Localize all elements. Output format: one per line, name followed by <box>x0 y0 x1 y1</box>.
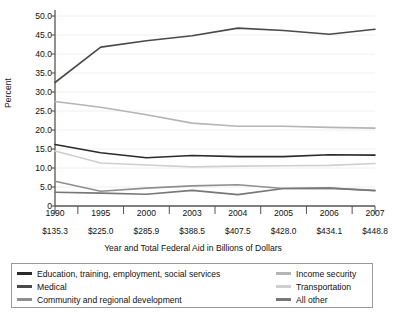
legend-label: Transportation <box>296 282 351 292</box>
legend-line-swatch <box>17 272 32 275</box>
series-line-income-security <box>55 102 375 129</box>
x-axis-tick-sublabel: $428.0 <box>261 226 307 237</box>
series-line-medical <box>55 28 375 82</box>
legend-item[interactable]: Transportation <box>276 280 356 293</box>
x-axis-tick-sublabel: $225.0 <box>78 226 124 237</box>
x-axis-tick-label: 2005 <box>261 208 307 219</box>
legend-label: Income security <box>296 269 356 279</box>
legend-line-swatch <box>17 298 32 301</box>
legend-line-swatch <box>276 285 291 288</box>
legend-item[interactable]: Income security <box>276 267 356 280</box>
plot-area: Percent 05.010.015.020.025.030.035.040.0… <box>0 0 386 260</box>
x-axis-tick-label: 1990 <box>32 208 78 219</box>
chart-legend: Education, training, employment, social … <box>11 263 373 308</box>
x-axis-tick-label: 2000 <box>124 208 170 219</box>
x-axis-tick-label: 1995 <box>78 208 124 219</box>
x-axis-tick-label: 2003 <box>169 208 215 219</box>
legend-label: Education, training, employment, social … <box>37 269 220 279</box>
legend-line-swatch <box>17 285 32 288</box>
x-axis-tick-sublabel: $285.9 <box>124 226 170 237</box>
legend-item[interactable]: Community and regional development <box>17 293 220 306</box>
legend-label: Community and regional development <box>37 295 182 305</box>
x-axis-tick-sublabel: $434.1 <box>306 226 352 237</box>
legend-item[interactable]: Education, training, employment, social … <box>17 267 220 280</box>
legend-label: All other <box>296 295 328 305</box>
series-line-community-and-regional-development <box>55 181 375 191</box>
x-axis-tick-labels: 19901995200020032004200520062007 <box>55 208 375 222</box>
x-axis-tick-sublabels: $135.3$225.0$285.9$388.5$407.5$428.0$434… <box>55 226 375 240</box>
legend-line-swatch <box>276 272 291 275</box>
x-axis-tick-label: 2004 <box>215 208 261 219</box>
x-axis-tick-sublabel: $407.5 <box>215 226 261 237</box>
legend-column-left: Education, training, employment, social … <box>17 267 220 306</box>
series-line-education-training-employment-social-services <box>55 144 375 157</box>
x-axis-tick-sublabel: $135.3 <box>32 226 78 237</box>
x-axis-tick-sublabel: $448.8 <box>352 226 393 237</box>
x-axis-tick-sublabel: $388.5 <box>169 226 215 237</box>
legend-line-swatch <box>276 298 291 301</box>
legend-item[interactable]: All other <box>276 293 356 306</box>
legend-column-right: Income securityTransportationAll other <box>276 267 356 306</box>
legend-label: Medical <box>37 282 67 292</box>
x-axis-title: Year and Total Federal Aid in Billions o… <box>0 243 386 253</box>
legend-item[interactable]: Medical <box>17 280 220 293</box>
x-axis-tick-label: 2007 <box>352 208 393 219</box>
x-axis-tick-label: 2006 <box>306 208 352 219</box>
